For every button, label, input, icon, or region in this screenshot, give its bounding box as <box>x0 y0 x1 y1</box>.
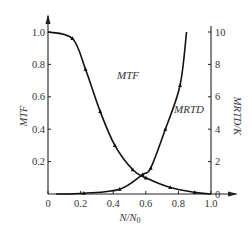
y-left-tick-label: 0.2 <box>32 156 45 167</box>
mtf-mrtd-chart: 00.20.40.60.81.00.20.40.60.81.00246810 M… <box>0 0 252 236</box>
y-right-tick-label: 8 <box>215 59 220 70</box>
x-tick-label: 0 <box>45 198 50 209</box>
y-left-tick-label: 1.0 <box>32 27 45 38</box>
mtf-series-label: MTF <box>116 69 139 81</box>
data-marker-icon <box>178 83 182 87</box>
x-tick-label: 0.4 <box>107 198 121 209</box>
x-axis-title: N/N0 <box>119 212 141 225</box>
x-tick-label: 0.2 <box>74 198 87 209</box>
x-tick-label: 0.6 <box>139 198 152 209</box>
y-left-tick-label: 0.4 <box>32 124 46 135</box>
y-right-tick-label: 4 <box>215 124 221 135</box>
y-right-tick-label: 10 <box>215 27 226 38</box>
y-right-tick-label: 6 <box>215 91 220 102</box>
y-right-tick-label: 2 <box>215 156 220 167</box>
y-left-tick-label: 0.6 <box>32 91 45 102</box>
mrtd-series-label: MRTD <box>173 103 204 115</box>
y-axis-arrow-icon <box>46 14 51 24</box>
y-right-tick-label: 0 <box>215 189 220 200</box>
x-tick-label: 1.0 <box>204 198 217 209</box>
mrtd-curve <box>56 32 186 194</box>
x-tick-label: 0.8 <box>172 198 185 209</box>
x-axis-arrow-icon <box>228 192 238 197</box>
y-left-tick-label: 0.8 <box>32 59 45 70</box>
y-axis-right-title: MRTD/K <box>232 96 243 137</box>
y-axis-left-title: MTF <box>18 105 29 128</box>
ticks: 00.20.40.60.81.00.20.40.60.81.00246810 <box>32 27 226 210</box>
